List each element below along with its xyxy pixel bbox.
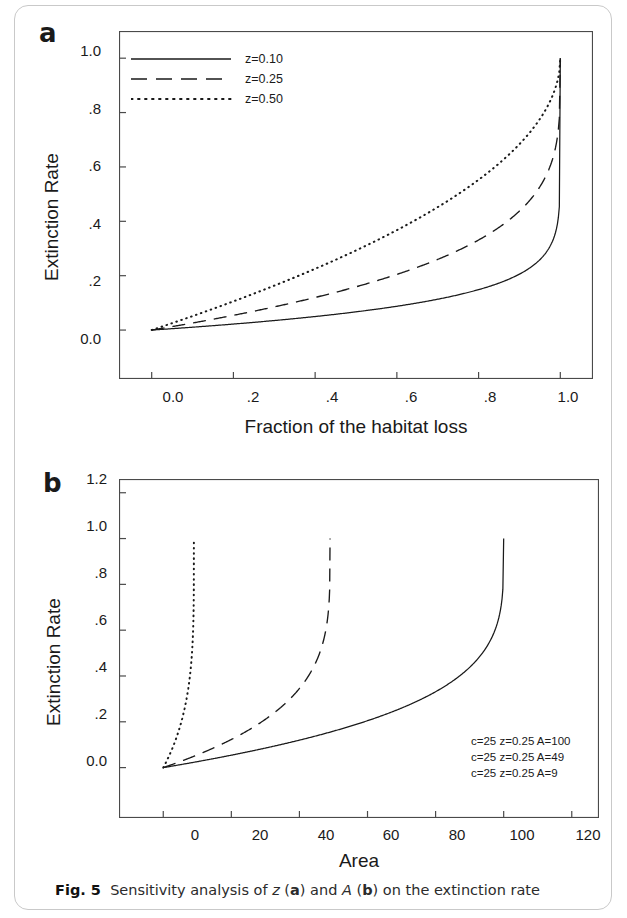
figure-caption: Fig. 5 Sensitivity analysis of z (a) and… [55,882,615,898]
panel-a-xtick-0: 0.0 [150,388,196,405]
panel-b-x-axis-title: Area [119,850,599,872]
caption-part-3: ) and [300,882,342,898]
panel-a-xtick-1: .2 [230,388,276,405]
caption-part-5: ) on the extinction rate [373,882,540,898]
panel-b-xtick-4: 80 [437,826,477,843]
panel-b-ytick-5: .2 [65,705,107,722]
caption-part-2: ( [280,882,290,898]
panel-a-ytick-3: .4 [59,215,101,232]
panel-a-ytick-5: 0.0 [59,330,101,347]
panel-b-xtick-1: 20 [240,826,280,843]
panel-b-xtick-0: 0 [175,826,215,843]
panel-b-letter: b [43,468,61,498]
panel-b-xtick-5: 100 [502,826,542,843]
caption-var-z: z [272,882,280,898]
panel-b: b Extinction Rate 1.2 1.0 .8 .6 .4 .2 0.… [15,454,613,874]
panel-a-legend-label-1: z=0.25 [245,72,283,86]
caption-var-A: A [342,882,352,898]
panel-b-ytick-2: .8 [65,564,107,581]
panel-a-ytick-0: 1.0 [59,42,101,59]
panel-a-ytick-2: .6 [59,157,101,174]
panel-a-xtick-5: 1.0 [545,388,591,405]
panel-b-xtick-6: 120 [568,826,608,843]
caption-part-1: Sensitivity analysis of [110,882,272,898]
panel-a-legend-label-0: z=0.10 [245,52,283,66]
panel-a-xtick-2: .4 [309,388,355,405]
panel-b-legend-label-2: c=25 z=0.25 A=9 [471,767,558,779]
panel-b-ytick-1: 1.0 [65,517,107,534]
caption-label: Fig. 5 [55,882,101,898]
panel-a-xtick-3: .6 [388,388,434,405]
panel-a-ytick-1: .8 [59,100,101,117]
panel-a-legend-label-2: z=0.50 [245,92,283,106]
caption-ref-b: b [362,882,372,898]
panel-b-xtick-2: 40 [306,826,346,843]
panel-a-letter: a [39,18,56,48]
panel-b-ytick-4: .4 [65,658,107,675]
panel-b-xtick-3: 60 [371,826,411,843]
panel-a-x-axis-title: Fraction of the habitat loss [119,416,593,438]
panel-b-ytick-0: 1.2 [65,470,107,487]
caption-part-4: ( [352,882,362,898]
figure-card: a Extinction Rate 1.0 .8 .6 .4 .2 0.0 z=… [14,5,612,910]
panel-a-xtick-4: .8 [467,388,513,405]
panel-b-legend-label-0: c=25 z=0.25 A=100 [471,735,570,747]
panel-a-ytick-4: .2 [59,272,101,289]
panel-a: a Extinction Rate 1.0 .8 .6 .4 .2 0.0 z=… [15,6,613,446]
caption-ref-a: a [290,882,300,898]
panel-b-y-axis-title: Extinction Rate [43,598,65,726]
panel-a-legend-lines [131,52,233,110]
panel-b-ytick-6: 0.0 [65,752,107,769]
panel-b-ytick-3: .6 [65,611,107,628]
panel-b-legend-label-1: c=25 z=0.25 A=49 [471,751,564,763]
